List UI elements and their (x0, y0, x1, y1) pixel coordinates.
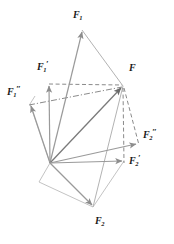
label-f1-prime-mark: ′ (46, 59, 48, 69)
label-f1-subscript: 1 (79, 14, 82, 21)
outline-origin-lower-left (39, 163, 50, 182)
label-f-resultant: F (129, 63, 136, 73)
label-f-base: F (129, 62, 136, 73)
parallelogram-side-f1-to-f (82, 30, 123, 86)
label-f2-prime-mark: ′ (138, 153, 140, 163)
label-f2-prime: F2′ (129, 156, 141, 166)
label-f1-double-prime-mark: ″ (16, 84, 21, 94)
vectors-group (31, 32, 136, 205)
dashed-horizontal-f1prime (49, 84, 122, 85)
label-f1: F1 (73, 10, 83, 20)
construction-lines-group (30, 30, 124, 207)
label-f1-prime: F1′ (37, 62, 49, 72)
dashed-diagonal-f2doubleprime (124, 88, 139, 145)
dashed-vertical-f2prime (123, 88, 124, 163)
label-f2-subscript: 2 (101, 220, 104, 227)
vector-f1 (50, 32, 82, 163)
vector-diagram-figure: F1 F1′ F1″ F F2″ F2′ F2 (0, 0, 174, 244)
vector-f2 (50, 163, 92, 205)
label-f2-double-prime: F2″ (143, 130, 158, 140)
label-f2: F2 (95, 216, 105, 226)
outline-lower-left-to-f2 (39, 182, 93, 207)
vector-f2-prime (50, 161, 122, 163)
label-f2-double-prime-mark: ″ (152, 127, 157, 137)
vector-resultant-f (50, 88, 121, 163)
label-f1-double-prime: F1″ (7, 87, 22, 97)
parallelogram-side-f2-to-f (93, 86, 123, 207)
vector-diagram-canvas (0, 0, 174, 244)
vector-f1-double-prime (31, 106, 50, 163)
vector-f1-prime (49, 86, 50, 163)
outline-f2-to-f2prime (93, 161, 124, 207)
vector-f2-double-prime (50, 144, 136, 163)
outline-f1doubleprime-upper (30, 96, 35, 104)
